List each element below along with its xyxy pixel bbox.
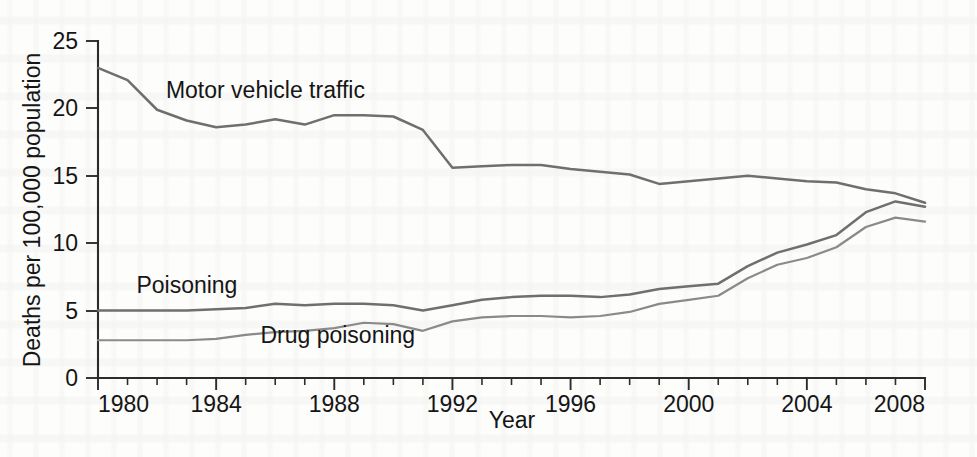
y-tick-label-20: 20: [52, 95, 78, 121]
line-chart: 25 20 15 10 5 0 Deaths per 100,000 popul…: [0, 0, 977, 457]
y-tick-label-10: 10: [52, 230, 78, 256]
x-tick-label-1980: 1980: [98, 391, 149, 417]
series-label-motor-vehicle-traffic: Motor vehicle traffic: [166, 77, 365, 103]
y-axis-title: Deaths per 100,000 population: [19, 53, 45, 368]
y-tick-label-5: 5: [65, 298, 78, 324]
series-label-poisoning: Poisoning: [136, 272, 237, 298]
y-axis-tick-labels: 25 20 15 10 5 0: [52, 28, 78, 391]
chart-page: 25 20 15 10 5 0 Deaths per 100,000 popul…: [0, 0, 977, 457]
x-tick-label-2004: 2004: [781, 391, 832, 417]
y-tick-label-0: 0: [65, 365, 78, 391]
x-tick-label-1996: 1996: [545, 391, 596, 417]
x-tick-label-2008: 2008: [874, 391, 925, 417]
x-tick-label-1988: 1988: [309, 391, 360, 417]
data-series-group: [98, 68, 925, 340]
series-label-drug-poisoning: Drug poisoning: [260, 322, 415, 348]
x-tick-label-2000: 2000: [663, 391, 714, 417]
y-tick-label-25: 25: [52, 28, 78, 54]
x-axis-ticks: [98, 378, 925, 390]
x-axis-title: Year: [489, 407, 536, 433]
y-tick-label-15: 15: [52, 163, 78, 189]
x-tick-label-1992: 1992: [427, 391, 478, 417]
y-axis-ticks: [86, 41, 98, 378]
x-tick-label-1984: 1984: [191, 391, 242, 417]
